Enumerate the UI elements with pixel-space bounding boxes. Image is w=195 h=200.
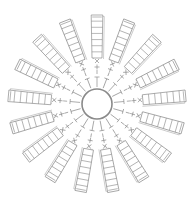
chain-line-symbol [83, 118, 88, 127]
stitch-column [108, 19, 134, 63]
chain-line-symbol [124, 89, 128, 91]
chain-line-symbol [92, 121, 94, 131]
cross-symbol [65, 125, 69, 128]
chain-line-symbol [112, 92, 121, 96]
cross-symbol [90, 138, 91, 143]
chain-line-symbol [79, 84, 86, 91]
stitch-column [136, 59, 180, 89]
petal [73, 119, 99, 192]
chain-line-symbol [75, 114, 83, 120]
chain-line-symbol [113, 109, 123, 112]
petal [113, 90, 186, 110]
chain-line-symbol [85, 72, 86, 76]
petal [91, 15, 104, 87]
stitch-column [140, 111, 185, 134]
chain-line-symbol [121, 122, 124, 124]
x-mark-symbol [103, 144, 108, 149]
chain-line-symbol [71, 109, 81, 112]
chain-line-symbol [67, 89, 71, 91]
x-mark-symbol [56, 82, 61, 87]
chain-line-symbol [117, 79, 120, 82]
chain-line-symbol [114, 102, 124, 103]
petal [9, 102, 82, 134]
x-mark-symbol [110, 61, 115, 66]
chain-line-symbol [74, 79, 77, 82]
chain-line-symbol [113, 130, 115, 133]
petal [8, 89, 81, 109]
crochet-diagram [0, 0, 195, 200]
x-mark-symbol [53, 113, 58, 118]
t-bar-symbol [90, 130, 95, 131]
petal [111, 103, 184, 135]
stitch-column [59, 19, 85, 63]
chain-line-symbol [111, 114, 119, 120]
t-bar-symbol [81, 126, 85, 129]
chain-line-symbol [108, 84, 115, 91]
chain-line-symbol [103, 133, 104, 137]
cross-symbol [103, 138, 104, 143]
chain-line-symbol [108, 72, 109, 76]
cross-symbol [115, 133, 118, 137]
chain-line-symbol [70, 122, 73, 124]
chain-line-symbol [126, 112, 130, 113]
t-bar-symbol [109, 126, 113, 129]
chain-line-symbol [106, 118, 111, 127]
x-mark-symbol [87, 144, 92, 149]
chain-line-symbol [91, 133, 92, 137]
t-bar-symbol [100, 130, 105, 131]
cross-symbol [76, 133, 79, 137]
chain-line-symbol [103, 79, 107, 88]
stitch-column [10, 111, 55, 134]
chain-line-symbol [70, 102, 80, 103]
x-mark-symbol [79, 61, 84, 66]
stitch-column [33, 34, 71, 74]
x-mark-symbol [133, 82, 138, 87]
t-bar-symbol [74, 118, 77, 122]
center-ring [82, 89, 112, 119]
chain-line-symbol [87, 79, 91, 88]
x-mark-symbol [136, 113, 141, 118]
chain-line-symbol [73, 92, 82, 96]
t-bar-symbol [117, 118, 120, 122]
chain-line-symbol [64, 112, 68, 113]
stitch-column [91, 15, 103, 58]
petal [93, 120, 119, 193]
cross-symbol [125, 125, 129, 128]
chain-line-symbol [100, 121, 102, 131]
chain-line-symbol [79, 130, 81, 133]
petal-group [8, 15, 186, 193]
